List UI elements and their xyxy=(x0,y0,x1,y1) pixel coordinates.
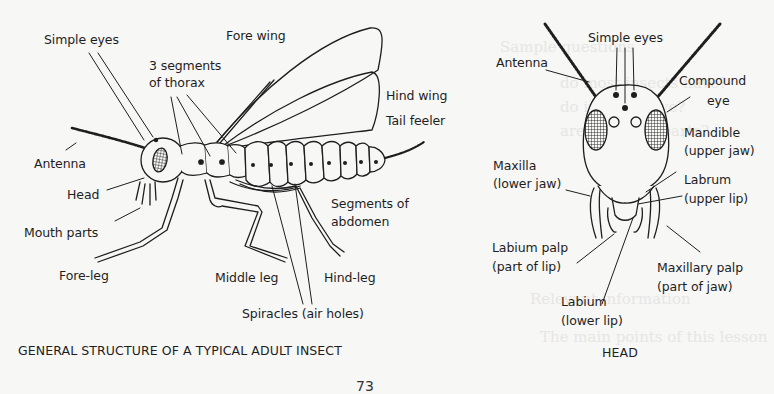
label-labrum-line1: Labrum xyxy=(684,172,731,187)
label-hind-leg: Hind-leg xyxy=(324,270,376,285)
label-fore-wing: Fore wing xyxy=(226,28,286,43)
label-fore-leg: Fore-leg xyxy=(59,268,109,283)
label-thorax-line1: 3 segments xyxy=(149,58,221,73)
figure-caption-head: HEAD xyxy=(602,345,638,360)
label-labium-palp-line2: (part of lip) xyxy=(492,259,561,274)
label-mandible-line2: (upper jaw) xyxy=(684,143,755,158)
label-head-simple-eyes: Simple eyes xyxy=(588,30,663,45)
label-mandible-line1: Mandible xyxy=(684,125,740,140)
label-spiracles: Spiracles (air holes) xyxy=(242,306,364,321)
label-head: Head xyxy=(67,187,99,202)
figure-caption-insect: GENERAL STRUCTURE OF A TYPICAL ADULT INS… xyxy=(18,343,342,358)
label-thorax-line2: of thorax xyxy=(149,75,205,90)
label-labium-line2: (lower lip) xyxy=(561,313,623,328)
label-head-antenna: Antenna xyxy=(496,55,548,70)
insect-side-view xyxy=(66,28,424,304)
label-hind-wing: Hind wing xyxy=(386,88,447,103)
label-middle-leg: Middle leg xyxy=(215,270,278,285)
label-maxilla-line2: (lower jaw) xyxy=(493,176,561,191)
label-compound-eye-line2: eye xyxy=(707,93,729,108)
label-maxillary-palp-line2: (part of jaw) xyxy=(657,279,732,294)
label-compound-eye-line1: Compound xyxy=(679,73,746,88)
label-maxilla-line1: Maxilla xyxy=(493,158,536,173)
label-mouth-parts: Mouth parts xyxy=(24,225,98,240)
label-abdomen-line2: abdomen xyxy=(331,214,389,229)
label-antenna: Antenna xyxy=(34,156,86,171)
label-labium-palp-line1: Labium palp xyxy=(492,240,568,255)
label-simple-eyes: Simple eyes xyxy=(44,32,119,47)
label-abdomen-line1: Segments of xyxy=(331,196,409,211)
label-labium-line1: Labium xyxy=(561,294,607,309)
page-number: 73 xyxy=(356,378,374,394)
label-maxillary-palp-line1: Maxillary palp xyxy=(657,260,743,275)
label-labrum-line2: (upper lip) xyxy=(684,191,748,206)
label-tail-feeler: Tail feeler xyxy=(386,113,445,128)
